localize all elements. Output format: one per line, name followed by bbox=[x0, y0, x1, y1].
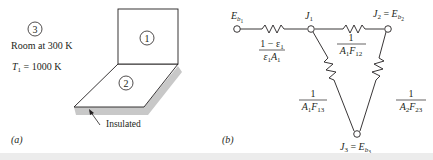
temperature-label: T1 = 1000 K bbox=[12, 61, 62, 74]
radiation-network-figure: 1 2 Insulated 3 Room at 300 K T1 = 1000 … bbox=[0, 0, 433, 160]
label-j1: J1 bbox=[305, 10, 313, 23]
caption-b: (b) bbox=[222, 134, 234, 146]
node-j2 bbox=[385, 26, 392, 33]
insulated-label: Insulated bbox=[106, 119, 141, 129]
caption-a: (a) bbox=[11, 134, 23, 146]
surface-2-label: 2 bbox=[124, 78, 129, 89]
resistor-surface-1-numerator: 1 − ε1 bbox=[260, 38, 284, 51]
room-number: 3 bbox=[33, 24, 38, 35]
surface-1-label: 1 bbox=[145, 33, 150, 44]
panel-b-labels: Eb1 J1 J2 = Eb2 J3 = Eb3 1 − ε1 ε1A1 1 A… bbox=[222, 8, 423, 155]
panel-a-geometry: 1 2 Insulated bbox=[74, 9, 182, 129]
resistor-space-13-icon bbox=[324, 58, 336, 80]
node-j3 bbox=[354, 131, 361, 138]
label-j2: J2 = Eb2 bbox=[373, 8, 404, 22]
resistor-space-23-denominator: A2F23 bbox=[399, 101, 423, 114]
resistor-space-12-denominator: A1F12 bbox=[339, 45, 363, 58]
bottom-band bbox=[0, 153, 433, 160]
resistor-space-12-icon bbox=[343, 25, 365, 33]
resistor-space-23-icon bbox=[372, 58, 384, 80]
resistor-space-13-numerator: 1 bbox=[311, 88, 316, 99]
node-eb1 bbox=[234, 26, 241, 33]
label-eb1: Eb1 bbox=[230, 10, 244, 24]
resistor-surface-1-icon bbox=[262, 25, 284, 33]
panel-a-text: 3 Room at 300 K T1 = 1000 K (a) bbox=[11, 22, 73, 146]
room-label: Room at 300 K bbox=[11, 40, 73, 51]
node-j1 bbox=[308, 26, 315, 33]
resistor-space-13-denominator: A1F13 bbox=[301, 101, 325, 114]
resistor-space-23-numerator: 1 bbox=[409, 88, 414, 99]
resistor-space-12-numerator: 1 bbox=[349, 32, 354, 43]
resistor-surface-1-denominator: ε1A1 bbox=[263, 51, 281, 64]
